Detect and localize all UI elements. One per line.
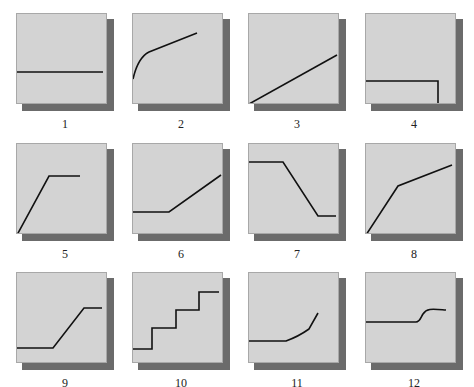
panel-label: 12 — [365, 376, 463, 387]
curve-rise-then-plateau — [17, 144, 107, 234]
curve-flat-then-sigmoid-step — [366, 273, 456, 363]
panel-11 — [248, 272, 340, 364]
panel-4 — [365, 13, 457, 105]
curve-linear-increasing — [249, 14, 339, 104]
panel-label: 2 — [132, 117, 230, 132]
panel-label: 5 — [16, 247, 114, 262]
curve-constant-then-drop — [366, 14, 456, 104]
panel-6 — [132, 143, 224, 235]
graph-area — [248, 143, 339, 234]
panel-label: 4 — [365, 117, 463, 132]
panel-10 — [132, 272, 224, 364]
graph-area — [365, 143, 456, 234]
panel-2 — [132, 13, 224, 105]
panel-label: 7 — [248, 247, 346, 262]
panel-12 — [365, 272, 457, 364]
graph-area — [16, 272, 107, 363]
panel-label: 9 — [16, 376, 114, 387]
panel-label: 8 — [365, 247, 463, 262]
graph-area — [365, 13, 456, 104]
graph-area — [132, 143, 223, 234]
panel-7 — [248, 143, 340, 235]
curve-flat-rise-plateau — [17, 273, 107, 363]
panel-label: 11 — [248, 376, 346, 387]
curve-concave-increasing — [133, 14, 223, 104]
graph-area — [248, 272, 339, 363]
curve-flat-then-rise — [133, 144, 223, 234]
curve-steep-then-gentle-rise — [366, 144, 456, 234]
curve-plateau-decline-plateau — [249, 144, 339, 234]
panel-3 — [248, 13, 340, 105]
graph-area — [16, 13, 107, 104]
graph-area — [132, 13, 223, 104]
curve-flat-then-accelerating — [249, 273, 339, 363]
panel-label: 3 — [248, 117, 346, 132]
panel-1 — [16, 13, 108, 105]
panel-label: 1 — [16, 117, 114, 132]
panel-label: 6 — [132, 247, 230, 262]
graph-area — [16, 143, 107, 234]
panel-9 — [16, 272, 108, 364]
graph-area — [248, 13, 339, 104]
panel-label: 10 — [132, 376, 230, 387]
graph-area — [365, 272, 456, 363]
curve-staircase — [133, 273, 223, 363]
panel-5 — [16, 143, 108, 235]
graph-area — [132, 272, 223, 363]
curve-constant — [17, 14, 107, 104]
panel-8 — [365, 143, 457, 235]
